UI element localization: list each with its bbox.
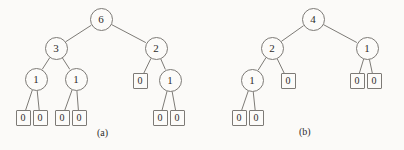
tree-edges-layer [0,0,404,150]
tree-edge [277,58,284,73]
tree-internal-node: 4 [302,8,325,31]
tree-leaf-node: 0 [170,110,185,126]
tree-internal-node: 2 [261,37,284,60]
tree-edge [172,91,175,110]
tree-edge [26,90,33,111]
tree-edge [111,24,146,42]
tree-edge [77,90,79,110]
tree-internal-node: 1 [356,37,379,60]
tree-leaf-node: 0 [153,110,168,126]
tree-edge [323,24,357,42]
tree-leaf-node: 0 [72,110,87,126]
tree-leaf-node: 0 [16,110,31,126]
tree-edge [37,90,39,110]
tree-internal-node: 6 [90,8,113,31]
tree-internal-node: 1 [159,69,182,92]
tree-edge [258,58,266,71]
tree-edge [281,26,303,42]
tree-edge [369,59,372,73]
tree-leaf-node: 0 [133,73,148,89]
tree-internal-node: 3 [45,37,68,60]
tree-leaf-node: 0 [55,110,70,126]
tree-edge [143,58,150,73]
tree-leaf-node: 0 [249,110,264,126]
panel-caption-a: (a) [97,128,108,138]
tree-edge [253,91,255,110]
tree-leaf-node: 0 [33,110,48,126]
tree-edge [62,58,70,70]
tree-internal-node: 1 [25,68,48,91]
tree-leaf-node: 0 [350,73,365,89]
tree-internal-node: 1 [241,69,264,92]
tree-edge [42,58,50,70]
tree-edge [162,91,167,110]
tree-leaf-node: 0 [232,110,247,126]
tree-edge [242,91,249,111]
tree-edge [161,59,166,70]
tree-edge [66,25,92,42]
tree-leaf-node: 0 [367,73,382,89]
panel-caption-b: (b) [299,127,311,137]
tree-internal-node: 2 [145,37,168,60]
tree-internal-node: 1 [65,68,88,91]
tree-leaf-node: 0 [281,73,296,89]
tree-edge [359,59,363,73]
tree-figure: 6321101000000421100000 (a)(b) [0,0,404,150]
tree-edge [65,90,72,111]
